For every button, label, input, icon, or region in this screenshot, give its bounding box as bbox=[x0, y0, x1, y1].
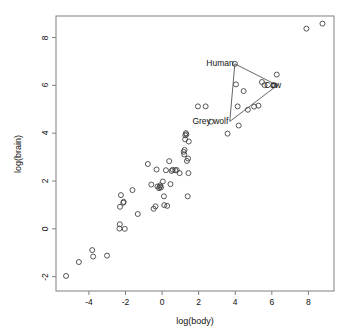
data-point bbox=[149, 182, 154, 187]
data-point bbox=[177, 171, 182, 176]
data-point bbox=[241, 89, 246, 94]
y-axis-tick-label: 8 bbox=[41, 35, 50, 40]
x-axis-tick-label: 4 bbox=[233, 298, 238, 307]
data-point bbox=[233, 82, 238, 87]
data-point bbox=[185, 194, 190, 199]
plot-border bbox=[56, 16, 334, 291]
data-point bbox=[160, 179, 165, 184]
y-axis-tick-label: 4 bbox=[41, 131, 50, 136]
scatter-plot-figure: -4-202468-202468 HumanCowGrey wolf log(b… bbox=[0, 0, 354, 333]
data-point bbox=[304, 26, 309, 31]
data-point-series bbox=[64, 21, 325, 278]
data-point bbox=[195, 104, 200, 109]
x-axis-tick-label: 8 bbox=[306, 298, 311, 307]
y-axis-tick-label: -2 bbox=[41, 273, 50, 281]
data-point bbox=[64, 273, 69, 278]
data-point bbox=[91, 254, 96, 259]
data-point bbox=[76, 260, 81, 265]
y-axis-tick-label: 2 bbox=[41, 179, 50, 184]
data-point bbox=[122, 226, 127, 231]
data-point-label: Grey wolf bbox=[192, 117, 228, 126]
data-point bbox=[130, 188, 135, 193]
data-point bbox=[225, 131, 230, 136]
y-axis-tick-label: 6 bbox=[41, 83, 50, 88]
data-point bbox=[236, 123, 241, 128]
x-axis-tick-label: 0 bbox=[160, 298, 165, 307]
data-point bbox=[118, 193, 123, 198]
data-point-label: Cow bbox=[264, 81, 281, 90]
x-axis-tick-label: -2 bbox=[122, 298, 130, 307]
plot-canvas bbox=[0, 0, 354, 333]
data-point bbox=[274, 72, 279, 77]
plot-frame bbox=[56, 16, 334, 291]
data-point bbox=[168, 182, 173, 187]
y-axis-tick-label: 0 bbox=[41, 226, 50, 231]
data-point bbox=[186, 171, 191, 176]
data-point bbox=[154, 167, 159, 172]
x-axis-tick-label: -4 bbox=[85, 298, 93, 307]
data-point bbox=[203, 104, 208, 109]
data-point bbox=[235, 104, 240, 109]
annotation-connector-line bbox=[230, 64, 278, 122]
data-point bbox=[135, 212, 140, 217]
data-point bbox=[165, 203, 170, 208]
x-axis-tick-label: 6 bbox=[269, 298, 274, 307]
data-point bbox=[105, 253, 110, 258]
data-point bbox=[145, 162, 150, 167]
x-axis-tick-label: 2 bbox=[196, 298, 201, 307]
annotation-polyline bbox=[230, 64, 278, 122]
data-point bbox=[167, 159, 172, 164]
data-point bbox=[90, 248, 95, 253]
data-point bbox=[163, 168, 168, 173]
data-point-label: Human bbox=[206, 59, 233, 68]
x-axis-title: log(body) bbox=[176, 317, 214, 326]
data-point bbox=[161, 194, 166, 199]
y-axis-title: log(brain) bbox=[14, 134, 23, 172]
data-point bbox=[320, 21, 325, 26]
